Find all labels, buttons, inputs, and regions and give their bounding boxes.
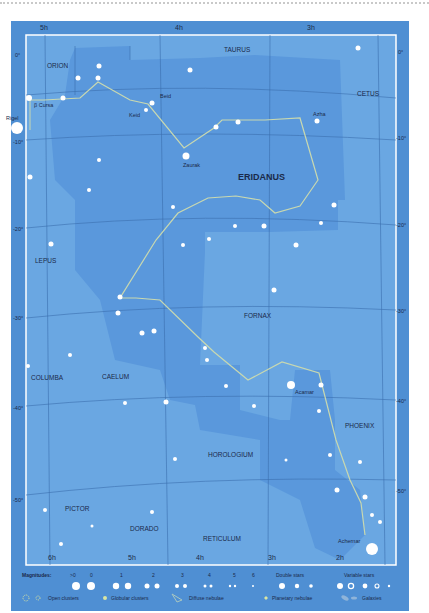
legend-mag-4: 3 xyxy=(181,572,184,578)
label-fornax: FORNAX xyxy=(244,312,272,319)
ra-bottom-5h: 5h xyxy=(128,554,136,561)
label-horologium: HOROLOGIUM xyxy=(208,451,253,458)
dec-right-30: -30° xyxy=(396,308,406,314)
ra-bottom-4h: 4h xyxy=(196,554,204,561)
legend-open-clusters: Open clusters xyxy=(48,595,79,601)
dec-left-20: -20° xyxy=(13,226,23,232)
legend-mag-7: 6 xyxy=(252,572,255,578)
legend: Magnitudes: >0 0 1 2 3 4 5 6 Double star… xyxy=(22,572,390,602)
dec-left-30: -30° xyxy=(13,315,23,321)
star-beid: Beid xyxy=(160,93,171,99)
galaxy-icon xyxy=(341,594,350,601)
star-zaurak: Zaurak xyxy=(183,162,200,168)
dec-right-20: -20° xyxy=(396,222,406,228)
legend-globular-clusters: Globular clusters xyxy=(111,595,149,601)
label-orion: ORION xyxy=(47,62,69,69)
label-pictor: PICTOR xyxy=(65,505,90,512)
label-phoenix: PHOENIX xyxy=(345,422,375,429)
dec-left-10: -10° xyxy=(13,139,23,145)
label-caelum: CAELUM xyxy=(102,373,129,380)
star-keid: Keid xyxy=(129,112,140,118)
dec-right-10: -10° xyxy=(396,135,406,141)
dec-right-40: -40° xyxy=(396,398,406,404)
dec-left-40: -40° xyxy=(13,405,23,411)
legend-mag-5: 4 xyxy=(208,572,211,578)
label-columba: COLUMBA xyxy=(31,374,64,381)
dec-left-50: -50° xyxy=(13,497,23,503)
legend-magnitudes-label: Magnitudes: xyxy=(22,572,52,578)
label-reticulum: RETICULUM xyxy=(203,535,241,542)
ra-bottom-2h: 2h xyxy=(336,554,344,561)
star-acamar: Acamar xyxy=(295,389,314,395)
star-azha: Azha xyxy=(313,111,326,117)
star-achernar: Achernar xyxy=(338,538,360,544)
legend-mag-3: 2 xyxy=(152,572,155,578)
legend-galaxies: Galaxies xyxy=(362,595,382,601)
dec-right-50: -50° xyxy=(396,488,406,494)
label-cetus: CETUS xyxy=(357,90,380,97)
dec-left-0: 0° xyxy=(15,52,20,58)
open-cluster-small-icon xyxy=(36,596,40,600)
planetary-nebula-icon xyxy=(264,596,268,600)
dec-right-0: 0° xyxy=(398,49,403,55)
legend-planetary-nebulae: Planetary nebulae xyxy=(272,595,313,601)
galaxy-small-icon xyxy=(351,597,357,600)
legend-diffuse-nebulae: Diffuse nebulae xyxy=(189,595,224,601)
legend-double-stars: Double stars xyxy=(276,572,305,578)
ra-top-4h: 4h xyxy=(175,24,183,31)
open-cluster-icon xyxy=(23,595,29,601)
legend-mag-2: 1 xyxy=(120,572,123,578)
legend-variable-stars: Variable stars xyxy=(344,572,375,578)
ra-top-5h: 5h xyxy=(40,24,48,31)
ra-bottom-3h: 3h xyxy=(268,554,276,561)
legend-mag-0: >0 xyxy=(70,572,76,578)
legend-mag-6: 5 xyxy=(233,572,236,578)
label-taurus: TAURUS xyxy=(224,46,251,53)
ra-bottom-6h: 6h xyxy=(48,554,56,561)
label-eridanus: ERIDANUS xyxy=(238,172,285,182)
legend-mag-1: 0 xyxy=(90,572,93,578)
globular-cluster-icon xyxy=(103,596,107,600)
label-dorado: DORADO xyxy=(130,525,159,532)
diffuse-nebula-icon xyxy=(172,594,182,602)
star-chart: ORION TAURUS CETUS ERIDANUS LEPUS FORNAX… xyxy=(0,0,429,613)
label-lepus: LEPUS xyxy=(35,257,57,264)
star-cursa: β Cursa xyxy=(34,102,54,108)
star-rigel: Rigel xyxy=(6,115,19,121)
ra-top-3h: 3h xyxy=(307,24,315,31)
